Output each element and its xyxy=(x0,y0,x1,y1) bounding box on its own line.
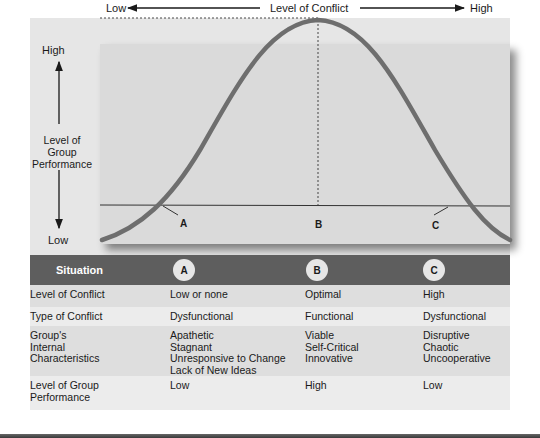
point-b-label: B xyxy=(315,219,322,230)
table-row: Level of Group Performance Low High Low xyxy=(30,376,510,410)
point-a-label: A xyxy=(180,218,187,229)
point-c-label: C xyxy=(432,220,439,231)
table-row: Group's Internal Characteristics Apathet… xyxy=(30,326,510,376)
table-header: Situation A B C xyxy=(30,255,510,285)
table-row: Type of Conflict Dysfunctional Functiona… xyxy=(30,307,510,326)
table-row: Level of Conflict Low or none Optimal Hi… xyxy=(30,285,510,307)
header-badge-c: C xyxy=(423,259,445,281)
header-badge-a: A xyxy=(173,259,195,281)
header-situation: Situation xyxy=(56,264,103,276)
header-badge-b: B xyxy=(306,259,328,281)
page-edge-divider xyxy=(0,434,540,438)
situation-table: Situation A B C Level of Conflict Low or… xyxy=(30,255,510,410)
